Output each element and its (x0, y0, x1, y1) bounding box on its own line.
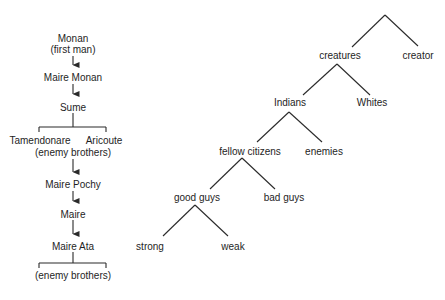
branch-right (289, 112, 322, 142)
tree-node-whites: Whites (357, 97, 388, 108)
branch-right (337, 64, 370, 95)
tree-node-creatures: creatures (319, 50, 361, 61)
tree-node-fellow-citizens: fellow citizens (219, 146, 281, 157)
tree-node-weak: weak (221, 241, 244, 252)
node-sume: Sume (60, 102, 86, 113)
tree-node-good-guys: good guys (174, 192, 220, 203)
node-monan-subtitle: (first man) (51, 44, 96, 55)
node-maire-monan: Maire Monan (44, 72, 102, 83)
tree-node-bad-guys: bad guys (264, 192, 305, 203)
node-aricoute: Aricoute (86, 135, 123, 146)
tree-node-creator: creator (402, 50, 433, 61)
node-maire: Maire (60, 209, 85, 220)
branch-left (163, 205, 195, 236)
node-monan: Monan (58, 33, 89, 44)
tree-branches (163, 15, 418, 236)
node-enemy-brothers-1: (enemy brothers) (35, 147, 111, 158)
branch-left (303, 64, 337, 95)
branch-left (257, 112, 289, 142)
branch-left (352, 15, 385, 47)
tree-node-enemies: enemies (305, 146, 343, 157)
branch-right (385, 15, 418, 46)
node-tamendonare: Tamendonare (9, 135, 70, 146)
node-enemy-brothers-2: (enemy brothers) (35, 270, 111, 281)
node-maire-pochy: Maire Pochy (45, 179, 101, 190)
branch-right (195, 205, 228, 236)
tree-node-indians: Indians (274, 97, 306, 108)
branch-right (242, 158, 275, 189)
branch-left (210, 158, 242, 189)
tree-node-strong: strong (136, 241, 164, 252)
node-maire-ata: Maire Ata (52, 241, 94, 252)
